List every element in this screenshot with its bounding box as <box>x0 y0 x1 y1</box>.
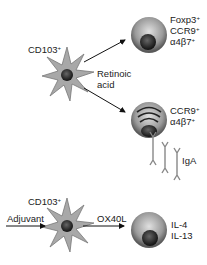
top-dendritic-cell-icon <box>42 47 94 101</box>
top-dc-label: CD103+ <box>28 44 61 55</box>
plasma-cell-icon <box>131 102 167 138</box>
iga-label: IgA <box>182 155 196 166</box>
treg-markers: Foxp3+ CCR9+ α4β7+ <box>170 14 200 47</box>
plasma-markers: CCR9+ α4β7+ <box>170 105 199 127</box>
arrow-to-treg <box>84 40 125 62</box>
arrow-to-plasma <box>84 88 125 112</box>
th2-markers: IL-4 IL-13 <box>171 219 193 241</box>
th2-cell-icon <box>131 212 167 248</box>
retinoic-acid-label: Retinoicacid <box>97 68 131 90</box>
ox40l-label: OX40L <box>97 213 127 224</box>
bottom-dc-label: CD103+ <box>28 196 61 207</box>
treg-cell-icon <box>131 17 167 53</box>
adjuvant-label: Adjuvant <box>7 213 44 224</box>
iga-antibody-icons <box>150 132 180 180</box>
